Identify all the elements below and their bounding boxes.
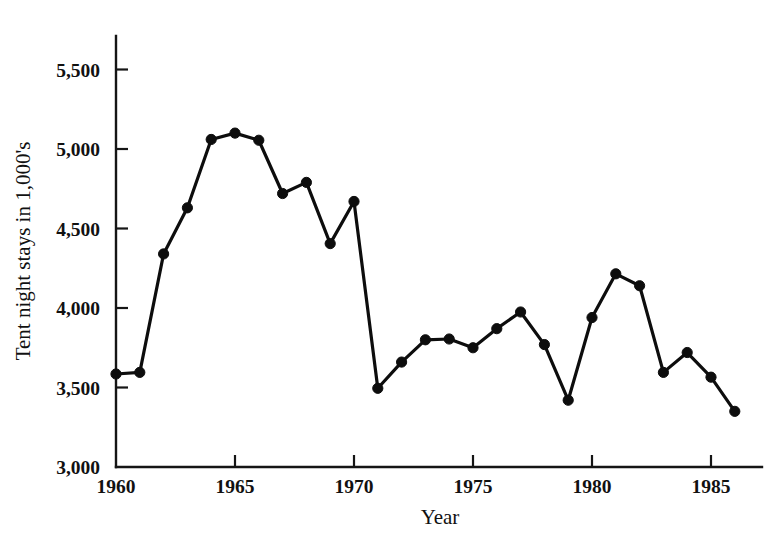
data-point bbox=[635, 281, 645, 291]
data-point bbox=[325, 239, 335, 249]
data-point bbox=[206, 134, 216, 144]
y-tick-label: 4,000 bbox=[56, 298, 100, 319]
data-point bbox=[349, 196, 359, 206]
data-point bbox=[230, 128, 240, 138]
y-axis-label: Tent night stays in 1,000's bbox=[11, 142, 35, 361]
data-series-points bbox=[111, 128, 740, 416]
data-point bbox=[611, 269, 621, 279]
data-point bbox=[516, 307, 526, 317]
y-axis-ticks bbox=[116, 70, 128, 388]
data-series-line bbox=[116, 133, 735, 411]
x-tick-label: 1965 bbox=[216, 476, 255, 497]
x-axis-tick-labels: 196019651970197519801985 bbox=[97, 476, 731, 497]
data-point bbox=[182, 203, 192, 213]
y-tick-label: 5,500 bbox=[56, 60, 100, 81]
data-point bbox=[706, 372, 716, 382]
data-point bbox=[563, 395, 573, 405]
data-point bbox=[111, 369, 121, 379]
y-tick-label: 5,000 bbox=[56, 139, 100, 160]
data-point bbox=[492, 324, 502, 334]
data-point bbox=[468, 343, 478, 353]
y-tick-label: 4,500 bbox=[56, 219, 100, 240]
x-tick-label: 1980 bbox=[573, 476, 612, 497]
x-tick-label: 1960 bbox=[97, 476, 136, 497]
data-point bbox=[373, 383, 383, 393]
data-point bbox=[658, 367, 668, 377]
data-point bbox=[301, 177, 311, 187]
data-point bbox=[587, 312, 597, 322]
data-point bbox=[278, 188, 288, 198]
x-axis-ticks bbox=[235, 455, 711, 467]
plot-area: 3,0003,5004,0004,5005,0005,500 196019651… bbox=[0, 0, 770, 553]
x-axis-label: Year bbox=[421, 505, 460, 529]
data-point bbox=[397, 357, 407, 367]
data-point bbox=[254, 135, 264, 145]
line-chart-figure: 3,0003,5004,0004,5005,0005,500 196019651… bbox=[0, 0, 770, 553]
data-point bbox=[539, 339, 549, 349]
data-point bbox=[730, 406, 740, 416]
x-tick-label: 1970 bbox=[335, 476, 374, 497]
data-point bbox=[682, 347, 692, 357]
data-point bbox=[159, 249, 169, 259]
data-point bbox=[420, 335, 430, 345]
y-axis-tick-labels: 3,0003,5004,0004,5005,0005,500 bbox=[56, 60, 100, 479]
y-tick-label: 3,000 bbox=[56, 457, 100, 478]
y-tick-label: 3,500 bbox=[56, 378, 100, 399]
x-tick-label: 1975 bbox=[454, 476, 493, 497]
data-point bbox=[444, 334, 454, 344]
x-tick-label: 1985 bbox=[692, 476, 731, 497]
data-point bbox=[135, 367, 145, 377]
